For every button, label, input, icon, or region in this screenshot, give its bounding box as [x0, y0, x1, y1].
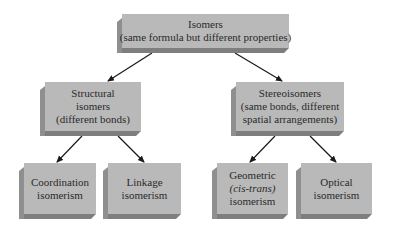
node-line: isomerism — [122, 189, 168, 202]
box-front: Linkage isomerism — [108, 163, 181, 214]
node-line-italic: (cis-trans) — [230, 182, 276, 195]
node-optical-isomerism: Optical isomerism — [296, 163, 372, 219]
node-line: isomerism — [37, 189, 83, 202]
box-front: Isomers (same formula but different prop… — [122, 14, 289, 48]
node-geometric-isomerism: Geometric (cis-trans) isomerism — [212, 163, 288, 219]
node-line: spatial arrangements) — [243, 113, 337, 126]
node-isomers: Isomers (same formula but different prop… — [117, 14, 289, 53]
node-line: (different bonds) — [56, 113, 130, 126]
node-line: Coordination — [31, 176, 89, 189]
node-line: Geometric — [229, 169, 275, 182]
node-subtitle: (same formula but different properties) — [120, 31, 291, 44]
arrow-stereo-optical — [310, 136, 336, 162]
node-line: isomerism — [314, 189, 360, 202]
box-front: Geometric (cis-trans) isomerism — [217, 163, 288, 214]
box-bottom-face — [24, 214, 96, 219]
box-bottom-face — [122, 48, 289, 53]
box-bottom-face — [108, 214, 181, 219]
box-bottom-face — [301, 214, 372, 219]
node-line: Structural — [71, 87, 114, 100]
arrow-root-structural — [108, 53, 152, 81]
node-line: isomerism — [230, 195, 276, 208]
arrow-stereo-geometric — [250, 136, 275, 162]
box-front: Coordination isomerism — [24, 163, 96, 214]
box-front: Stereoisomers (same bonds, different spa… — [236, 82, 344, 131]
node-line: Optical — [320, 176, 352, 189]
node-line: (same bonds, different — [241, 100, 339, 113]
node-title: Isomers — [188, 18, 223, 31]
node-line: Stereoisomers — [259, 87, 321, 100]
box-front: Structural isomers (different bonds) — [45, 82, 141, 131]
node-coordination-isomerism: Coordination isomerism — [19, 163, 96, 219]
arrow-root-stereo — [235, 53, 282, 81]
box-front: Optical isomerism — [301, 163, 372, 214]
node-line: Linkage — [126, 176, 162, 189]
node-stereoisomers: Stereoisomers (same bonds, different spa… — [231, 82, 344, 136]
node-structural-isomers: Structural isomers (different bonds) — [40, 82, 141, 136]
node-line: isomers — [76, 100, 110, 113]
box-bottom-face — [217, 214, 288, 219]
arrow-structural-linkage — [118, 136, 144, 162]
box-bottom-face — [236, 131, 344, 136]
box-bottom-face — [45, 131, 141, 136]
node-linkage-isomerism: Linkage isomerism — [103, 163, 181, 219]
arrow-structural-coordination — [57, 136, 82, 162]
